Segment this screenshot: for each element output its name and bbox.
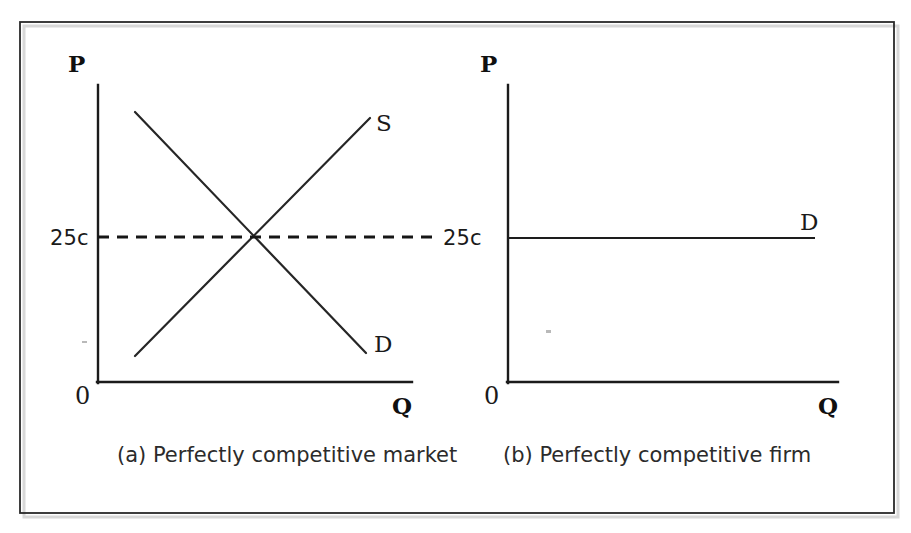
panel-b-demand-label: D bbox=[800, 209, 818, 235]
panel-a-price-label: 25c bbox=[50, 226, 89, 250]
panel-a-x-axis-label: Q bbox=[392, 392, 412, 419]
panel-a-demand-label: D bbox=[374, 331, 392, 357]
figure-container: P Q 0 25c S D P Q 0 25c D (a) Perfectly … bbox=[0, 0, 911, 533]
panel-a-demand-curve bbox=[135, 112, 366, 353]
scan-artifact bbox=[82, 341, 87, 343]
panel-b bbox=[507, 85, 838, 383]
panel-a-supply-label: S bbox=[376, 110, 392, 136]
panel-a-origin-label: 0 bbox=[75, 382, 90, 410]
figure-frame bbox=[20, 22, 894, 513]
panel-a-caption: (a) Perfectly competitive market bbox=[117, 443, 457, 467]
economics-figure: P Q 0 25c S D P Q 0 25c D (a) Perfectly … bbox=[0, 0, 911, 533]
panel-b-origin-label: 0 bbox=[484, 382, 499, 410]
panel-b-y-axis-label: P bbox=[480, 50, 497, 77]
panel-b-x-axis-label: Q bbox=[818, 392, 838, 419]
panel-b-caption: (b) Perfectly competitive firm bbox=[503, 443, 811, 467]
panel-b-price-label: 25c bbox=[443, 226, 482, 250]
panel-a-y-axis-label: P bbox=[68, 50, 85, 77]
scan-artifact-b bbox=[546, 330, 551, 333]
